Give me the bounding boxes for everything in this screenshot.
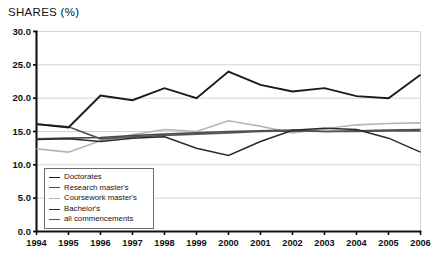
y-tick-labels: 0.05.010.015.020.025.030.0 (13, 26, 37, 237)
svg-text:30.0: 30.0 (13, 26, 32, 37)
legend-label-research-masters: Research master's (64, 183, 129, 194)
chart-legend: Doctorates Research master's Coursework … (44, 168, 154, 229)
legend-label-doctorates: Doctorates (64, 172, 102, 183)
svg-text:20.0: 20.0 (13, 92, 32, 103)
svg-text:25.0: 25.0 (13, 59, 32, 70)
svg-text:1995: 1995 (58, 238, 78, 248)
legend-label-bachelors: Bachelor's (64, 204, 100, 215)
svg-text:2001: 2001 (250, 238, 270, 248)
legend-item-doctorates: Doctorates (48, 172, 149, 183)
svg-text:1996: 1996 (90, 238, 110, 248)
legend-swatch-doctorates (49, 177, 60, 178)
svg-text:2006: 2006 (410, 238, 430, 248)
svg-text:1999: 1999 (186, 238, 206, 248)
legend-item-coursework-masters: Coursework master's (48, 193, 149, 204)
legend-item-research-masters: Research master's (48, 183, 149, 194)
svg-text:2003: 2003 (314, 238, 334, 248)
svg-text:5.0: 5.0 (18, 192, 31, 203)
legend-item-all-commencements: all commencements (48, 214, 149, 225)
svg-text:2002: 2002 (282, 238, 302, 248)
svg-text:1997: 1997 (122, 238, 142, 248)
legend-swatch-coursework-masters (49, 198, 60, 199)
legend-swatch-all-commencements (49, 219, 60, 220)
legend-swatch-bachelors (49, 209, 60, 210)
svg-text:2005: 2005 (378, 238, 398, 248)
legend-item-bachelors: Bachelor's (48, 204, 149, 215)
svg-text:15.0: 15.0 (13, 126, 32, 137)
legend-label-all-commencements: all commencements (64, 214, 133, 225)
series-line-doctorates (37, 72, 421, 128)
x-tick-labels: 1994199519961997199819992000200120022003… (26, 232, 430, 249)
legend-label-coursework-masters: Coursework master's (64, 193, 137, 204)
svg-text:0.0: 0.0 (18, 226, 31, 237)
svg-text:10.0: 10.0 (13, 159, 32, 170)
legend-swatch-research-masters (49, 187, 60, 188)
data-series-group (37, 72, 421, 156)
chart-container: SHARES (%) 0.05.010.015.020.025.030.0 19… (0, 0, 434, 260)
svg-text:2004: 2004 (346, 238, 367, 248)
svg-text:2000: 2000 (218, 238, 238, 248)
svg-text:1998: 1998 (154, 238, 174, 248)
svg-text:1994: 1994 (26, 238, 47, 248)
